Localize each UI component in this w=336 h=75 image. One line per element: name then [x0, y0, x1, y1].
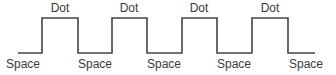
space-label: Space: [217, 57, 251, 71]
dot-label: Dot: [190, 1, 209, 15]
waveform-line: [18, 18, 315, 53]
dot-label: Dot: [120, 1, 139, 15]
dot-label: Dot: [51, 1, 70, 15]
space-label: Space: [147, 57, 181, 71]
space-label: Space: [289, 57, 323, 71]
space-label: Space: [6, 57, 40, 71]
square-wave-diagram: Dot Dot Dot Dot Space Space Space Space …: [0, 0, 336, 75]
dot-label: Dot: [261, 1, 280, 15]
space-label: Space: [78, 57, 112, 71]
